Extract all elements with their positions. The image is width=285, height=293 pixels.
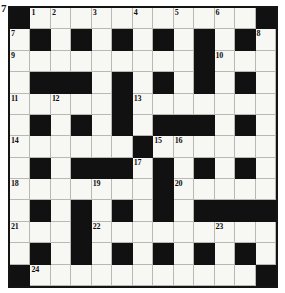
grid-cell[interactable]: 4 <box>133 8 153 29</box>
grid-cell[interactable] <box>10 243 30 264</box>
grid-cell[interactable] <box>71 94 91 115</box>
grid-cell[interactable] <box>10 158 30 179</box>
grid-cell[interactable] <box>51 29 71 50</box>
grid-cell[interactable] <box>133 265 153 286</box>
grid-cell[interactable]: 8 <box>256 29 276 50</box>
grid-cell[interactable] <box>194 136 214 157</box>
grid-cell[interactable] <box>215 243 235 264</box>
grid-cell[interactable] <box>133 179 153 200</box>
grid-cell[interactable]: 18 <box>10 179 30 200</box>
grid-cell[interactable] <box>51 136 71 157</box>
grid-cell[interactable] <box>256 243 276 264</box>
grid-cell[interactable] <box>235 8 255 29</box>
grid-cell[interactable] <box>133 222 153 243</box>
grid-cell[interactable] <box>30 179 50 200</box>
grid-cell[interactable] <box>30 94 50 115</box>
grid-cell[interactable] <box>174 222 194 243</box>
grid-cell[interactable] <box>174 72 194 93</box>
grid-cell[interactable] <box>194 222 214 243</box>
grid-cell[interactable] <box>51 222 71 243</box>
grid-cell[interactable] <box>71 8 91 29</box>
grid-cell[interactable] <box>10 72 30 93</box>
grid-cell[interactable] <box>71 265 91 286</box>
grid-cell[interactable] <box>71 136 91 157</box>
grid-cell[interactable] <box>30 51 50 72</box>
grid-cell[interactable] <box>194 265 214 286</box>
grid-cell[interactable]: 14 <box>10 136 30 157</box>
grid-cell[interactable] <box>51 179 71 200</box>
grid-cell[interactable]: 15 <box>153 136 173 157</box>
grid-cell[interactable]: 22 <box>92 222 112 243</box>
grid-cell[interactable] <box>51 158 71 179</box>
grid-cell[interactable]: 17 <box>133 158 153 179</box>
grid-cell[interactable] <box>174 158 194 179</box>
grid-cell[interactable] <box>92 243 112 264</box>
grid-cell[interactable]: 3 <box>92 8 112 29</box>
grid-cell[interactable] <box>92 115 112 136</box>
grid-cell[interactable] <box>133 72 153 93</box>
grid-cell[interactable] <box>174 94 194 115</box>
grid-cell[interactable]: 12 <box>51 94 71 115</box>
grid-cell[interactable]: 9 <box>10 51 30 72</box>
grid-cell[interactable] <box>174 200 194 221</box>
grid-cell[interactable] <box>30 136 50 157</box>
grid-cell[interactable] <box>10 115 30 136</box>
grid-cell[interactable]: 19 <box>92 179 112 200</box>
grid-cell[interactable] <box>235 51 255 72</box>
grid-cell[interactable] <box>51 200 71 221</box>
grid-cell[interactable] <box>133 51 153 72</box>
grid-cell[interactable]: 2 <box>51 8 71 29</box>
grid-cell[interactable] <box>133 243 153 264</box>
grid-cell[interactable] <box>235 94 255 115</box>
grid-cell[interactable] <box>92 136 112 157</box>
grid-cell[interactable]: 13 <box>133 94 153 115</box>
grid-cell[interactable] <box>112 222 132 243</box>
grid-cell[interactable] <box>235 265 255 286</box>
grid-cell[interactable] <box>92 29 112 50</box>
grid-cell[interactable] <box>153 8 173 29</box>
grid-cell[interactable]: 24 <box>30 265 50 286</box>
grid-cell[interactable] <box>51 265 71 286</box>
grid-cell[interactable] <box>215 158 235 179</box>
grid-cell[interactable] <box>256 136 276 157</box>
grid-cell[interactable] <box>153 51 173 72</box>
grid-cell[interactable]: 20 <box>174 179 194 200</box>
grid-cell[interactable] <box>256 158 276 179</box>
grid-cell[interactable] <box>215 29 235 50</box>
grid-cell[interactable] <box>194 94 214 115</box>
grid-cell[interactable] <box>256 51 276 72</box>
grid-cell[interactable] <box>215 94 235 115</box>
grid-cell[interactable]: 11 <box>10 94 30 115</box>
grid-cell[interactable] <box>92 265 112 286</box>
grid-cell[interactable] <box>51 243 71 264</box>
grid-cell[interactable]: 6 <box>215 8 235 29</box>
grid-cell[interactable]: 10 <box>215 51 235 72</box>
grid-cell[interactable] <box>256 179 276 200</box>
grid-cell[interactable]: 21 <box>10 222 30 243</box>
grid-cell[interactable] <box>10 200 30 221</box>
grid-cell[interactable] <box>71 51 91 72</box>
grid-cell[interactable]: 7 <box>10 29 30 50</box>
grid-cell[interactable] <box>174 51 194 72</box>
grid-cell[interactable] <box>153 94 173 115</box>
grid-cell[interactable] <box>235 136 255 157</box>
grid-cell[interactable] <box>92 200 112 221</box>
grid-cell[interactable] <box>256 94 276 115</box>
grid-cell[interactable] <box>92 72 112 93</box>
grid-cell[interactable] <box>51 51 71 72</box>
grid-cell[interactable] <box>215 72 235 93</box>
grid-cell[interactable] <box>194 8 214 29</box>
grid-cell[interactable] <box>256 222 276 243</box>
grid-cell[interactable] <box>256 115 276 136</box>
grid-cell[interactable] <box>174 29 194 50</box>
grid-cell[interactable] <box>112 51 132 72</box>
grid-cell[interactable]: 5 <box>174 8 194 29</box>
grid-cell[interactable] <box>235 222 255 243</box>
grid-cell[interactable] <box>112 265 132 286</box>
grid-cell[interactable] <box>174 243 194 264</box>
grid-cell[interactable] <box>215 179 235 200</box>
grid-cell[interactable] <box>153 222 173 243</box>
grid-cell[interactable] <box>194 179 214 200</box>
grid-cell[interactable] <box>133 29 153 50</box>
grid-cell[interactable] <box>235 179 255 200</box>
